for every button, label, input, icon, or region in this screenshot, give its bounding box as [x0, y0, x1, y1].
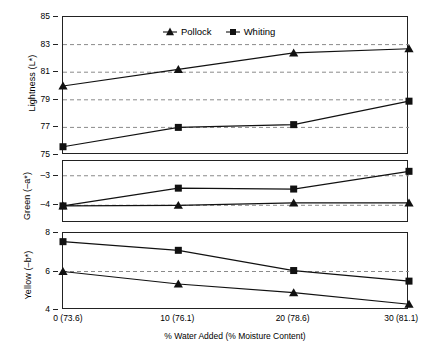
y-tick-label: –4 [41, 199, 50, 209]
legend-marker-triangle-icon [163, 27, 177, 37]
x-tick-label: 10 (76.1) [160, 313, 194, 323]
y-tick-label: 83 [41, 39, 50, 49]
y-ticks-green: –3–4 [28, 160, 58, 222]
y-tick-mark [53, 154, 58, 155]
y-tick-mark [53, 99, 58, 100]
y-tick-label: 77 [41, 121, 50, 131]
x-ticks: 0 (73.6)10 (76.1)20 (78.6)30 (81.1) [62, 313, 408, 327]
legend-label-pollock: Pollock [181, 26, 212, 37]
y-tick-label: 79 [41, 94, 50, 104]
legend-label-whiting: Whiting [244, 26, 276, 37]
y-tick-mark [53, 44, 58, 45]
panel-green [62, 160, 408, 222]
x-tick-label: 30 (81.1) [384, 313, 418, 323]
y-tick-label: 8 [45, 227, 50, 237]
y-tick-mark [53, 204, 58, 205]
y-tick-mark [53, 71, 58, 72]
y-tick-mark [53, 271, 58, 272]
y-ticks-yellow: 864 [28, 232, 58, 309]
plot-area-lightness [63, 17, 409, 155]
y-tick-mark [53, 16, 58, 17]
legend-entry-pollock: Pollock [163, 26, 212, 37]
figure-root: Lightness (L*) 757779818385 Pollock Whit… [0, 0, 444, 359]
y-tick-label: 4 [45, 304, 50, 314]
y-tick-mark [53, 232, 58, 233]
plot-area-yellow [63, 233, 409, 310]
x-tick-label: 20 (78.6) [276, 313, 310, 323]
x-axis-title: % Water Added (% Moisture Content) [62, 331, 408, 341]
y-tick-label: 6 [45, 266, 50, 276]
y-tick-label: –3 [41, 170, 50, 180]
legend-marker-square-icon [226, 27, 240, 37]
legend-entry-whiting: Whiting [226, 26, 276, 37]
y-tick-label: 81 [41, 66, 50, 76]
panel-yellow [62, 232, 408, 309]
legend: Pollock Whiting [163, 26, 275, 37]
y-tick-label: 75 [41, 149, 50, 159]
x-tick-label: 0 (73.6) [53, 313, 82, 323]
y-ticks-lightness: 757779818385 [28, 16, 58, 154]
y-tick-label: 85 [41, 11, 50, 21]
y-tick-mark [53, 175, 58, 176]
plot-area-green [63, 161, 409, 223]
y-tick-mark [53, 126, 58, 127]
y-tick-mark [53, 309, 58, 310]
